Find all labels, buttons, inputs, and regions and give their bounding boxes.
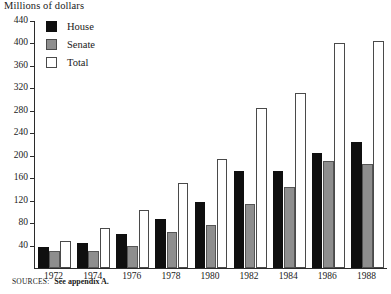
bar-group-1976 (116, 18, 149, 268)
x-tick-label-1986: 1986 (308, 271, 347, 281)
bar-senate-1980 (206, 225, 217, 268)
y-tick-label: 120 (2, 195, 28, 205)
bar-total-1972 (60, 241, 71, 268)
y-tick-label: 160 (2, 172, 28, 182)
bar-total-1976 (139, 210, 150, 268)
bar-house-1978 (155, 219, 166, 268)
bar-senate-1978 (167, 232, 178, 268)
x-tick-label-1980: 1980 (190, 271, 229, 281)
bar-senate-1988 (362, 164, 373, 268)
chart-legend: House Senate Total (46, 18, 95, 72)
bar-senate-1984 (284, 187, 295, 268)
y-axis-title: Millions of dollars (4, 0, 84, 11)
x-tick-label-1982: 1982 (230, 271, 269, 281)
bar-house-1982 (234, 171, 245, 268)
bar-total-1986 (334, 43, 345, 268)
legend-item-house: House (46, 18, 95, 34)
legend-label-house: House (67, 21, 94, 32)
bar-group-1984 (273, 18, 306, 268)
legend-swatch-house-icon (46, 21, 57, 32)
bar-house-1984 (273, 171, 284, 268)
y-tick-label: 200 (2, 150, 28, 160)
x-tick-label-1988: 1988 (347, 271, 386, 281)
bar-house-1976 (116, 234, 127, 268)
bar-senate-1972 (49, 251, 60, 268)
legend-label-senate: Senate (67, 39, 95, 50)
bar-house-1986 (312, 153, 323, 268)
bar-total-1974 (100, 228, 111, 268)
y-tick-label: 280 (2, 105, 28, 115)
bar-group-1988 (351, 18, 384, 268)
bar-senate-1982 (245, 204, 256, 268)
bar-group-1986 (312, 18, 345, 268)
x-tick-label-1984: 1984 (269, 271, 308, 281)
bar-group-1982 (234, 18, 267, 268)
legend-swatch-senate-icon (46, 39, 57, 50)
bar-house-1974 (77, 243, 88, 268)
y-tick-label: 320 (2, 82, 28, 92)
y-tick-label: 440 (2, 15, 28, 25)
bar-group-1980 (195, 18, 228, 268)
bar-senate-1976 (127, 246, 138, 268)
legend-item-total: Total (46, 54, 95, 70)
bar-senate-1986 (323, 161, 334, 268)
legend-label-total: Total (67, 57, 88, 68)
source-note-text: See appendix A. (54, 277, 108, 286)
bar-total-1982 (256, 108, 267, 268)
bar-house-1988 (351, 142, 362, 268)
bar-total-1980 (217, 159, 228, 268)
chart-figure: Millions of dollars 40801201602002402803… (0, 0, 391, 294)
source-note: SOURCES: See appendix A. (12, 277, 109, 286)
bar-house-1980 (195, 202, 206, 268)
bar-senate-1974 (88, 251, 99, 268)
bar-total-1984 (295, 93, 306, 268)
y-tick-label: 240 (2, 127, 28, 137)
y-tick-label: 40 (2, 240, 28, 250)
x-tick-label-1976: 1976 (112, 271, 151, 281)
bar-group-1978 (155, 18, 188, 268)
legend-swatch-total-icon (46, 57, 57, 68)
y-tick-label: 80 (2, 217, 28, 227)
source-note-prefix: SOURCES: (12, 277, 49, 286)
legend-item-senate: Senate (46, 36, 95, 52)
bar-total-1988 (373, 41, 384, 268)
bar-house-1972 (38, 247, 49, 268)
x-tick-label-1978: 1978 (151, 271, 190, 281)
bar-total-1978 (178, 183, 189, 268)
y-tick-label: 400 (2, 37, 28, 47)
y-tick-label: 360 (2, 60, 28, 70)
